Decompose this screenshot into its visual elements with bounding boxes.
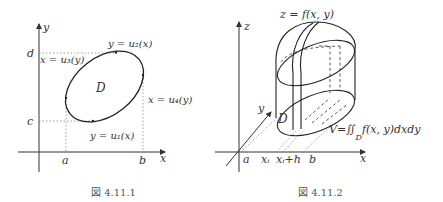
region-label: D [95,81,106,95]
figure-4-11-2: z y x z = f(x, y) D a xᵢ xᵢ+h b V=∬Df(x,… [215,8,421,198]
curve-right-label: x = u₄(y) [148,94,192,105]
projection-lines [243,116,333,152]
curve-top-label: y = u₂(x) [107,38,152,49]
region-d-label: D [277,112,288,126]
y-axis-3d-label: y [257,102,265,115]
tick-b-3d: b [309,153,316,166]
tick-a-3d: a [243,153,250,166]
y-axis-label: y [42,21,50,34]
tick-xi-plus-h: xᵢ+h [276,153,301,166]
surface-label: z = f(x, y) [279,8,334,21]
tick-b: b [139,154,146,167]
tick-d: d [27,47,34,60]
x-axis-label: x [160,152,167,165]
tick-a: a [62,154,69,167]
tick-c: c [27,115,33,128]
tick-xi: xᵢ [261,153,269,166]
figure-4-11-1: y x d c a b D y = u₂(x) x = u₃(y) x = u₄… [18,21,192,198]
caption-4-11-1: 図 4.11.1 [91,187,136,198]
volume-formula: V=∬Df(x, y)dxdy [329,123,421,142]
curve-left-label: x = u₃(y) [40,54,84,65]
x-axis-3d-label: x [360,152,367,165]
z-axis-label: z [243,20,250,33]
caption-4-11-2: 図 4.11.2 [298,187,343,198]
curve-bottom-label: y = u₁(x) [89,130,134,141]
figure-canvas: y x d c a b D y = u₂(x) x = u₃(y) x = u₄… [0,0,443,202]
